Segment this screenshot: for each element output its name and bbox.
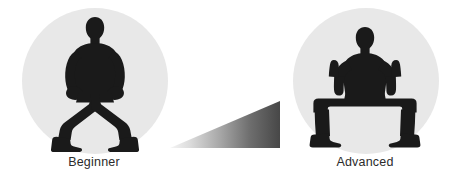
panel-beginner: Beginner [14, 0, 174, 182]
squat-beginner-silhouette [14, 0, 174, 160]
squat-advanced-silhouette [285, 0, 445, 160]
difficulty-ramp [170, 99, 282, 149]
caption-beginner: Beginner [14, 154, 174, 170]
panel-advanced: Advanced [285, 0, 445, 182]
caption-advanced: Advanced [285, 154, 445, 170]
squat-progression-graphic: Beginner [0, 0, 459, 182]
